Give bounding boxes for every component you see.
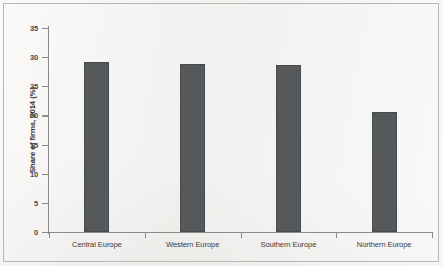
bar[interactable] (84, 62, 109, 232)
y-axis-tick-label: 25 (30, 82, 38, 91)
y-axis-tick-label: 15 (30, 140, 38, 149)
x-axis-separator-tick (145, 232, 146, 238)
x-axis-separator-tick (432, 232, 433, 238)
y-axis-tick-label: 30 (30, 53, 38, 62)
y-axis-tick-label: 20 (30, 111, 38, 120)
y-axis-tick-label: 0 (34, 228, 38, 237)
plot-area (49, 28, 432, 232)
y-axis-tick (42, 232, 48, 233)
x-axis-separator-tick (241, 232, 242, 238)
x-axis-category-label: Central Europe (72, 240, 122, 249)
y-axis-tick (42, 115, 48, 116)
y-axis-title-container: Share of firms, 2014 (%) (12, 28, 26, 232)
y-axis-tick-label: 10 (30, 169, 38, 178)
x-axis-separator-tick (336, 232, 337, 238)
y-axis-title: Share of firms, 2014 (%) (28, 55, 37, 205)
y-axis-tick (42, 145, 48, 146)
y-axis-tick (42, 174, 48, 175)
bar[interactable] (372, 112, 397, 232)
y-axis-tick (42, 203, 48, 204)
bar[interactable] (276, 65, 301, 232)
y-axis-tick-label: 35 (30, 24, 38, 33)
y-axis-tick (42, 86, 48, 87)
x-axis-separator-tick (49, 232, 50, 238)
y-axis-tick (42, 28, 48, 29)
y-axis-tick-label: 5 (34, 198, 38, 207)
x-axis-category-label: Northern Europe (357, 240, 412, 249)
x-axis-category-label: Southern Europe (260, 240, 316, 249)
y-axis-tick (42, 57, 48, 58)
x-axis-category-label: Western Europe (166, 240, 219, 249)
bar-chart-figure: Share of firms, 2014 (%) 35302520151050 … (0, 0, 443, 266)
bar[interactable] (180, 64, 205, 232)
